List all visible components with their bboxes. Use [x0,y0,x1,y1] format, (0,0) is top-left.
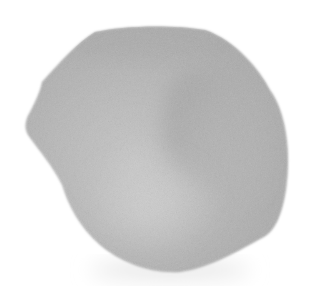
grain-texture [0,0,317,308]
photo [0,0,317,308]
petal-image [0,0,317,308]
